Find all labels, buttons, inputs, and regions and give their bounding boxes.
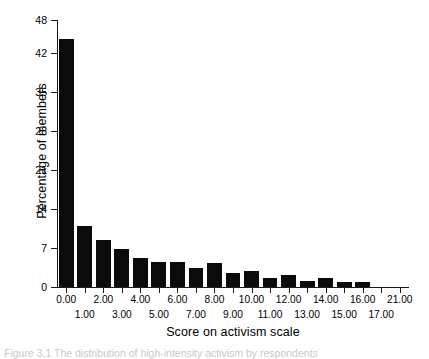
x-axis-tick-label: 12.00 <box>269 294 309 305</box>
x-axis-tick-label: 21.00 <box>380 294 420 305</box>
y-axis-tick-label: 21 <box>7 165 47 175</box>
y-axis-tick-label: 48 <box>7 15 47 25</box>
x-axis-tick-label: 0.00 <box>46 294 86 305</box>
x-axis-tick-label: 1.00 <box>65 309 105 320</box>
x-axis-tick-label: 7.00 <box>176 309 216 320</box>
y-axis-tick-label: 28 <box>7 126 47 136</box>
y-axis-tick-label: 42 <box>7 48 47 58</box>
x-axis-tick <box>363 288 364 293</box>
x-axis-tick <box>307 288 308 293</box>
x-axis-tick <box>233 288 234 293</box>
x-axis-tick-label: 10.00 <box>232 294 272 305</box>
x-axis-tick-label: 14.00 <box>306 294 346 305</box>
y-axis-title: Percentage of members <box>33 31 51 271</box>
y-axis-tick-label: 14 <box>7 204 47 214</box>
bar <box>318 278 333 287</box>
bar <box>281 275 296 287</box>
x-axis-tick-label: 17.00 <box>361 309 401 320</box>
x-axis-tick-label: 15.00 <box>324 309 364 320</box>
bar <box>337 282 352 287</box>
x-axis-tick <box>326 288 327 293</box>
x-axis-tick <box>252 288 253 293</box>
x-axis-tick <box>196 288 197 293</box>
bar <box>263 278 278 287</box>
bar <box>244 271 259 287</box>
bar <box>189 268 204 287</box>
x-axis-tick <box>400 288 401 293</box>
x-axis-tick-label: 16.00 <box>343 294 383 305</box>
y-axis-tick-label: 0 <box>7 282 47 292</box>
x-axis-tick <box>159 288 160 293</box>
bar <box>59 39 74 287</box>
x-axis-tick-label: 9.00 <box>213 309 253 320</box>
x-axis-tick <box>103 288 104 293</box>
x-axis-tick-label: 5.00 <box>139 309 179 320</box>
x-axis-tick-label: 2.00 <box>83 294 123 305</box>
y-axis-tick-label: 7 <box>7 243 47 253</box>
x-axis-title: Score on activism scale <box>57 325 409 339</box>
bar <box>114 249 129 287</box>
x-axis-tick <box>122 288 123 293</box>
bar <box>133 258 148 287</box>
x-axis-tick <box>140 288 141 293</box>
x-axis-tick <box>270 288 271 293</box>
x-axis-tick-label: 8.00 <box>194 294 234 305</box>
figure-container: Percentage of members 07142128354248 0.0… <box>0 0 429 359</box>
bar-series <box>57 20 409 287</box>
bar <box>151 262 166 287</box>
bar <box>207 263 222 287</box>
y-axis-tick <box>51 287 57 288</box>
x-axis-tick-label: 4.00 <box>120 294 160 305</box>
y-axis-tick-label: 35 <box>7 87 47 97</box>
x-axis-tick-label: 6.00 <box>157 294 197 305</box>
x-axis-tick <box>381 288 382 293</box>
x-axis-tick <box>66 288 67 293</box>
bar <box>300 281 315 287</box>
x-axis-tick <box>177 288 178 293</box>
x-axis-tick-label: 3.00 <box>102 309 142 320</box>
x-axis-tick <box>344 288 345 293</box>
bar <box>226 273 241 287</box>
bar <box>77 226 92 287</box>
bar <box>170 262 185 287</box>
x-axis-tick-label: 13.00 <box>287 309 327 320</box>
x-axis-tick <box>214 288 215 293</box>
bar <box>355 282 370 287</box>
figure-caption: Figure 3.1 The distribution of high-inte… <box>4 347 424 359</box>
x-axis-tick-label: 11.00 <box>250 309 290 320</box>
x-axis-tick <box>289 288 290 293</box>
bar <box>96 240 111 287</box>
x-axis-tick <box>85 288 86 293</box>
